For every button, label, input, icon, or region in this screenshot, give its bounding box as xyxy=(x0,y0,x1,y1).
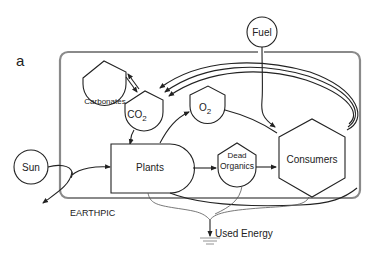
plants-label: Plants xyxy=(136,162,164,173)
consumers-label: Consumers xyxy=(286,154,337,165)
o2-storage: O2 xyxy=(190,86,225,124)
dead-organics-storage: Dead Organics xyxy=(218,143,256,187)
co2-to-plants-flow xyxy=(130,130,134,144)
carbonates-label: Carbonates xyxy=(84,97,125,106)
consumers-consumer: Consumers xyxy=(279,119,345,197)
earthpic-diagram: a Fuel Carbonates CO2 O2 Sun xyxy=(0,0,376,265)
sun-source: Sun xyxy=(14,150,48,184)
co2-storage: CO2 xyxy=(125,91,163,131)
sun-label: Sun xyxy=(22,162,40,173)
dead-organics-label-line2: Organics xyxy=(220,161,254,171)
used-energy-label: Used Energy xyxy=(215,228,273,239)
o2-to-consumers-flow xyxy=(225,110,277,133)
earthpic-label: EARTHPIC xyxy=(70,208,116,218)
plants-to-consumers-flow xyxy=(170,188,357,206)
plants-producer: Plants xyxy=(111,144,195,193)
panel-label: a xyxy=(16,52,25,69)
dead-organics-label-line1: Dead xyxy=(227,151,246,160)
sunlight-flow xyxy=(48,165,110,177)
fuel-source: Fuel xyxy=(247,17,277,47)
fuel-label: Fuel xyxy=(252,27,271,38)
carbonates-storage: Carbonates xyxy=(83,61,126,106)
co2-label: CO xyxy=(127,109,142,120)
plants-to-o2-flow xyxy=(160,112,189,143)
fuel-flow xyxy=(262,47,275,127)
